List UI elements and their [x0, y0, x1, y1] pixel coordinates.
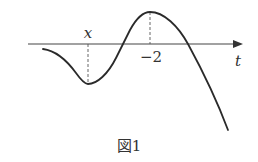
min-point-label: x — [84, 24, 93, 42]
axis-label: t — [235, 52, 242, 70]
axis-arrow-icon — [233, 40, 243, 48]
function-curve — [43, 12, 228, 130]
function-graph: x −2 t 図1 — [0, 0, 258, 162]
figure-caption: 図1 — [117, 137, 142, 155]
max-point-label: −2 — [140, 48, 162, 66]
